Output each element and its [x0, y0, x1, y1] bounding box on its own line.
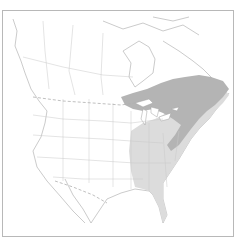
north-america-map [3, 11, 233, 236]
map-frame [2, 10, 234, 237]
international-border [33, 97, 135, 203]
